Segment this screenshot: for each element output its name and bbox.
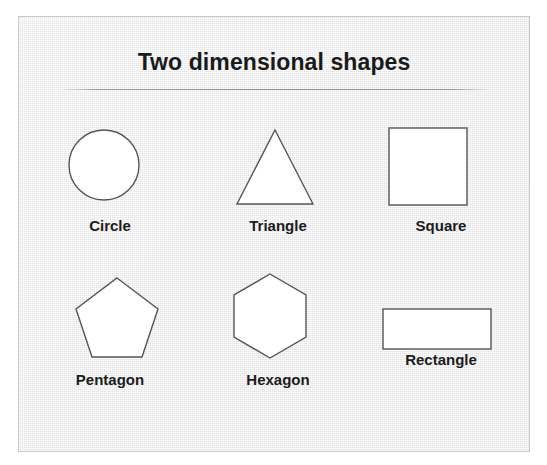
shape-figure-pentagon xyxy=(25,273,195,365)
shape-figure-square xyxy=(356,121,526,213)
triangle-icon xyxy=(193,121,363,213)
shape-cell-pentagon: Pentagon xyxy=(25,273,195,365)
shape-cell-hexagon: Hexagon xyxy=(193,273,363,365)
shape-label-pentagon: Pentagon xyxy=(25,371,195,388)
shape-figure-triangle xyxy=(193,121,363,213)
shape-label-triangle: Triangle xyxy=(193,217,363,234)
shape-cell-square: Square xyxy=(356,121,526,213)
shape-label-square: Square xyxy=(356,217,526,234)
shape-figure-hexagon xyxy=(193,273,363,365)
shape-figure-circle xyxy=(25,121,195,213)
shape-label-circle: Circle xyxy=(25,217,195,234)
shapes-grid: Circle Triangle Square xyxy=(19,121,529,421)
shape-cell-rectangle: Rectangle xyxy=(356,273,526,365)
pentagon-icon xyxy=(25,273,195,365)
shape-cell-circle: Circle xyxy=(25,121,195,213)
shapes-poster: Two dimensional shapes Circle Triangle xyxy=(18,16,530,452)
square-icon xyxy=(356,121,526,213)
shape-label-rectangle: Rectangle xyxy=(356,351,526,368)
hexagon-icon xyxy=(193,273,363,365)
circle-icon xyxy=(25,121,195,213)
shape-label-hexagon: Hexagon xyxy=(193,371,363,388)
shape-cell-triangle: Triangle xyxy=(193,121,363,213)
title-divider xyxy=(63,89,487,90)
page-title: Two dimensional shapes xyxy=(19,49,529,76)
